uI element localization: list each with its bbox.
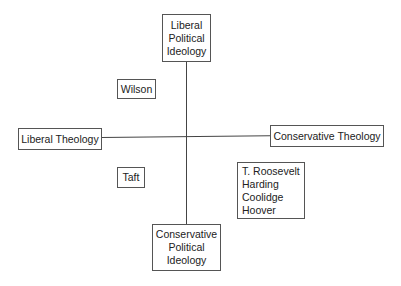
taft-box: Taft [117,167,145,188]
vertical-axis-line [186,62,187,224]
label-line: Political [168,241,204,254]
liberal-political-ideology-label: Liberal Political Ideology [162,14,211,62]
label-line: Ideology [167,45,207,58]
label-line: Liberal [171,19,203,32]
president-name: Coolidge [242,191,283,204]
label-line: Conservative Theology [273,130,380,143]
conservative-theology-label: Conservative Theology [270,125,384,147]
president-name: Harding [242,178,279,191]
label-line: Political [168,32,204,45]
republican-presidents-box: T. Roosevelt Harding Coolidge Hoover [237,162,305,219]
label-line: Conservative [156,228,217,241]
liberal-theology-label: Liberal Theology [18,128,102,150]
president-name: Wilson [121,83,153,96]
president-name: Hoover [242,204,276,217]
president-name: T. Roosevelt [242,165,300,178]
president-name: Taft [123,171,140,184]
label-line: Ideology [167,254,207,267]
label-line: Liberal Theology [21,133,98,146]
wilson-box: Wilson [117,79,156,99]
conservative-political-ideology-label: Conservative Political Ideology [152,224,221,271]
